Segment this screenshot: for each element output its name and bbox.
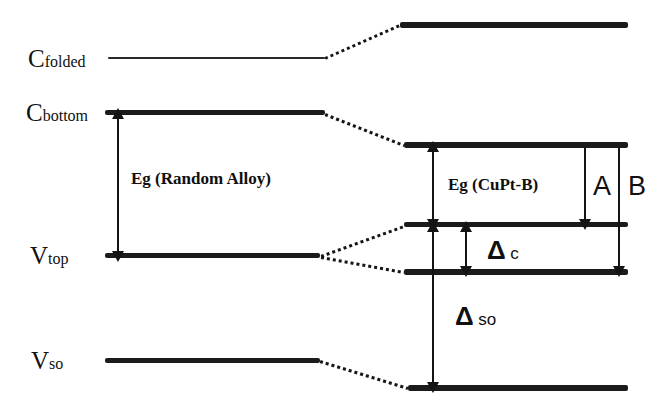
arrow-delta-so [432,230,434,384]
label-delta-c: Δ c [487,237,519,263]
connector-v-so [320,360,409,390]
arrowhead-up-icon [460,221,472,232]
connector-c-bottom [324,113,404,147]
connector-v-top-lower [321,256,404,274]
level-line-v-top-lower [404,269,628,275]
label-c-bottom-symbol: C [26,99,43,126]
label-v-so-subscript: so [49,355,63,372]
arrowhead-up-icon [427,141,439,152]
arrowhead-down-icon [613,266,625,277]
arrow-eg-random-alloy [117,117,119,253]
label-c-folded-symbol: C [28,45,45,72]
label-delta-so: Δ so [455,303,496,329]
connector-c-folded [324,24,400,60]
delta-so-glyph: Δ [455,301,474,331]
label-c-folded: Cfolded [28,46,86,71]
label-v-top: Vtop [30,243,69,268]
arrowhead-down-icon [460,266,472,277]
label-transition-a: A [593,173,611,200]
label-v-so: Vso [31,348,63,373]
label-eg-random-alloy: Eg (Random Alloy) [131,170,271,187]
level-line-c-folded [108,57,325,59]
level-line-v-top [105,253,320,258]
label-v-so-symbol: V [31,347,49,374]
delta-so-subscript: so [478,310,496,329]
arrowhead-up-icon [112,108,124,119]
label-v-top-symbol: V [30,242,48,269]
arrow-transition-a [584,147,586,221]
delta-c-glyph: Δ [487,235,506,265]
arrowhead-down-icon [579,219,591,230]
label-c-folded-subscript: folded [45,53,86,70]
label-eg-cupt-b: Eg (CuPt-B) [448,176,538,193]
connector-v-top-upper [320,225,404,258]
arrowhead-up-icon [427,221,439,232]
label-c-bottom-subscript: bottom [43,107,88,124]
arrow-transition-b [618,147,620,268]
arrowhead-down-icon [427,382,439,393]
arrow-delta-c [465,230,467,268]
level-line-c-folded-ordered [400,22,628,28]
level-line-v-so-ordered [408,385,628,391]
arrow-eg-cupt-b [432,150,434,221]
label-v-top-subscript: top [48,250,68,267]
label-transition-b: B [628,173,646,200]
delta-c-subscript: c [510,244,519,263]
arrowhead-down-icon [112,251,124,262]
level-line-v-so [105,358,320,363]
level-line-c-bottom [105,110,325,115]
label-c-bottom: Cbottom [26,100,88,125]
energy-level-diagram: Cfolded Cbottom Vtop Vso Eg (Random Allo… [0,0,659,411]
